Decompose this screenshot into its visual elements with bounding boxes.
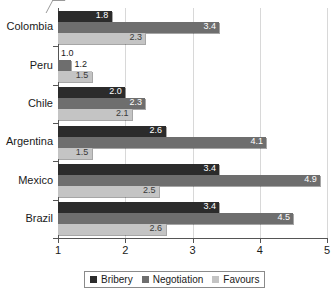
bar-brazil-bribery[interactable] — [58, 202, 219, 213]
bar-value-label: 3.4 — [203, 201, 216, 212]
bar-row: 2.1 — [58, 109, 327, 120]
bar-value-label: 3.4 — [203, 163, 216, 174]
category-label-peru: Peru — [0, 59, 53, 71]
legend-item-negotiation[interactable]: Negotiation — [142, 274, 204, 285]
x-axis-tick-label: 4 — [248, 244, 272, 256]
category-label-brazil: Brazil — [0, 212, 53, 224]
bar-row: 2.5 — [58, 186, 327, 197]
category-label-argentina: Argentina — [0, 135, 53, 147]
bar-row: 3.4 — [58, 164, 327, 175]
bar-group: 2.02.32.1 — [58, 85, 327, 123]
gridline — [327, 8, 328, 238]
bar-value-label: 1.0 — [61, 48, 74, 59]
bar-value-label: 2.0 — [109, 86, 122, 97]
bar-value-label: 1.2 — [74, 59, 87, 70]
legend-label: Bribery — [101, 274, 133, 285]
bar-value-label: 1.5 — [76, 147, 89, 158]
category-label-colombia: Colombia — [0, 20, 53, 32]
bar-value-label: 4.1 — [250, 136, 263, 147]
bar-value-label: 3.4 — [203, 21, 216, 32]
bar-row: 4.5 — [58, 213, 327, 224]
bar-group: 3.44.92.5 — [58, 161, 327, 199]
x-axis-tick — [58, 238, 59, 243]
bar-row: 4.9 — [58, 175, 327, 186]
bar-row: 2.0 — [58, 87, 327, 98]
x-axis-tick-label: 5 — [315, 244, 331, 256]
bar-row: 1.8 — [58, 11, 327, 22]
bar-value-label: 4.9 — [304, 174, 317, 185]
legend-swatch-icon — [212, 276, 219, 283]
y-axis-tick — [53, 238, 58, 239]
x-axis-tick-label: 2 — [113, 244, 137, 256]
bar-row: 2.6 — [58, 224, 327, 235]
bar-row: 2.3 — [58, 98, 327, 109]
category-label-mexico: Mexico — [0, 174, 53, 186]
bar-mexico-negotiation[interactable] — [58, 175, 320, 186]
bar-value-label: 2.6 — [150, 125, 163, 136]
bar-argentina-negotiation[interactable] — [58, 137, 266, 148]
bar-row: 3.4 — [58, 22, 327, 33]
bar-value-label: 1.5 — [76, 70, 89, 81]
legend-label: Negotiation — [153, 274, 204, 285]
category-label-chile: Chile — [0, 97, 53, 109]
bar-value-label: 4.5 — [277, 212, 290, 223]
legend-swatch-icon — [142, 276, 149, 283]
x-axis-tick — [327, 238, 328, 243]
legend-label: Favours — [223, 274, 259, 285]
bar-chart: 12345 ColombiaPeruChileArgentinaMexicoBr… — [0, 0, 331, 300]
bar-value-label: 2.6 — [150, 223, 163, 234]
bar-peru-negotiation[interactable] — [58, 60, 71, 71]
bar-group: 1.83.42.3 — [58, 8, 327, 46]
x-axis-tick — [193, 238, 194, 243]
legend-item-bribery[interactable]: Bribery — [90, 274, 133, 285]
bar-value-label: 2.3 — [129, 97, 142, 108]
bar-row: 1.5 — [58, 148, 327, 159]
chart-legend: BriberyNegotiationFavours — [84, 271, 265, 288]
legend-item-favours[interactable]: Favours — [212, 274, 259, 285]
bar-group: 2.64.11.5 — [58, 123, 327, 161]
bar-group: 3.44.52.6 — [58, 200, 327, 238]
legend-swatch-icon — [90, 276, 97, 283]
plot-area: 1.83.42.31.01.21.52.02.32.12.64.11.53.44… — [58, 8, 327, 238]
bar-group: 1.01.21.5 — [58, 46, 327, 84]
x-axis-tick-label: 3 — [181, 244, 205, 256]
bar-row: 2.3 — [58, 33, 327, 44]
bar-row: 1.5 — [58, 71, 327, 82]
bar-row: 2.6 — [58, 126, 327, 137]
x-axis-tick — [260, 238, 261, 243]
x-axis-tick-label: 1 — [46, 244, 70, 256]
bar-mexico-bribery[interactable] — [58, 164, 219, 175]
bar-row: 1.2 — [58, 60, 327, 71]
bar-value-label: 2.5 — [143, 185, 156, 196]
bar-row: 1.0 — [58, 49, 327, 60]
bar-brazil-negotiation[interactable] — [58, 213, 293, 224]
x-axis-tick — [125, 238, 126, 243]
bar-value-label: 2.1 — [116, 108, 129, 119]
bar-value-label: 1.8 — [96, 10, 109, 21]
bar-row: 4.1 — [58, 137, 327, 148]
bar-value-label: 2.3 — [129, 32, 142, 43]
